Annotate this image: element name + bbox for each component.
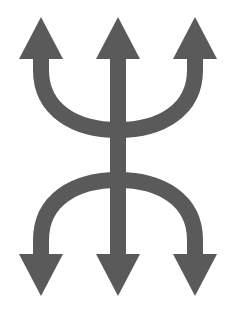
arrow-up-center-icon [96,17,140,59]
arrow-down-center-icon [96,254,140,296]
arrow-up-right-icon [173,17,217,59]
arrow-down-right-icon [173,254,217,296]
arrow-up-left-icon [19,17,63,59]
arrow-down-left-icon [19,254,63,296]
branching-arrows-icon [0,0,241,312]
